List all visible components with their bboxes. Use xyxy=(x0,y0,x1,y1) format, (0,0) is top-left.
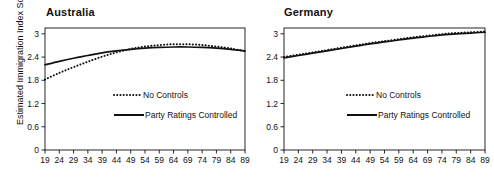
series-line-party-ratings-controlled xyxy=(284,32,485,58)
y-tick-label: 1.2 xyxy=(266,99,278,109)
y-tick-label: 1.8 xyxy=(266,75,278,85)
y-tick-label: 3 xyxy=(34,29,39,39)
y-tick-label: 1.2 xyxy=(27,99,39,109)
y-tick-label: 0.6 xyxy=(27,122,39,132)
legend-label-party-ratings: Party Ratings Controlled xyxy=(378,110,470,120)
x-tick-label: 74 xyxy=(197,155,207,165)
x-tick-label: 54 xyxy=(380,155,390,165)
chart-panel-australia: Australia Estimated Immigration Index Sc… xyxy=(0,0,252,178)
x-tick-label: 84 xyxy=(466,155,476,165)
x-tick-label: 44 xyxy=(351,155,361,165)
x-tick-label: 19 xyxy=(40,155,50,165)
immigration-index-figure: Australia Estimated Immigration Index Sc… xyxy=(0,0,494,178)
y-tick-label: 0.6 xyxy=(266,122,278,132)
chart-panel-germany: Germany 00.61.21.82.43192429343944495459… xyxy=(252,0,494,178)
plot-frame xyxy=(284,28,485,150)
x-tick-label: 29 xyxy=(69,155,79,165)
x-tick-label: 44 xyxy=(112,155,122,165)
plot-area-australia: 00.61.21.82.4319242934394449545964697479… xyxy=(0,0,252,178)
x-tick-label: 59 xyxy=(394,155,404,165)
legend-label-no-controls: No Controls xyxy=(376,90,421,100)
legend-label-party-ratings: Party Ratings Controlled xyxy=(145,110,237,120)
y-tick-label: 1.8 xyxy=(27,75,39,85)
y-tick-label: 3 xyxy=(273,29,278,39)
x-tick-label: 34 xyxy=(83,155,93,165)
y-tick-label: 0 xyxy=(34,145,39,155)
series-line-no-controls xyxy=(45,44,245,79)
x-tick-label: 49 xyxy=(365,155,375,165)
x-tick-label: 74 xyxy=(437,155,447,165)
plot-area-germany: 00.61.21.82.4319242934394449545964697479… xyxy=(252,0,494,178)
x-tick-label: 19 xyxy=(279,155,289,165)
x-tick-label: 54 xyxy=(140,155,150,165)
x-tick-label: 24 xyxy=(294,155,304,165)
y-tick-label: 0 xyxy=(273,145,278,155)
series-line-party-ratings-controlled xyxy=(45,47,245,65)
x-tick-label: 39 xyxy=(97,155,107,165)
x-tick-label: 89 xyxy=(240,155,250,165)
x-tick-label: 69 xyxy=(183,155,193,165)
x-tick-label: 64 xyxy=(169,155,179,165)
x-tick-label: 24 xyxy=(55,155,65,165)
y-tick-label: 2.4 xyxy=(266,52,278,62)
x-tick-label: 59 xyxy=(155,155,165,165)
y-tick-label: 2.4 xyxy=(27,52,39,62)
x-tick-label: 69 xyxy=(423,155,433,165)
legend-label-no-controls: No Controls xyxy=(143,90,188,100)
x-tick-label: 39 xyxy=(337,155,347,165)
x-tick-label: 34 xyxy=(322,155,332,165)
x-tick-label: 79 xyxy=(452,155,462,165)
x-tick-label: 64 xyxy=(408,155,418,165)
x-tick-label: 89 xyxy=(480,155,490,165)
x-tick-label: 79 xyxy=(212,155,222,165)
x-tick-label: 49 xyxy=(126,155,136,165)
x-tick-label: 29 xyxy=(308,155,318,165)
x-tick-label: 84 xyxy=(226,155,236,165)
